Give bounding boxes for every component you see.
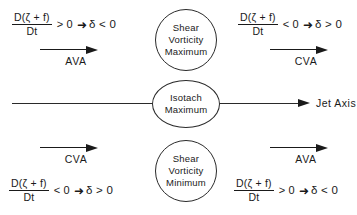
advection-upper-left: AVA [40,45,108,67]
fraction-numerator: D(ζ + f) [238,12,278,24]
divergence-result: δ > 0 [86,185,113,197]
bubble-line-1: Isotach [170,92,202,104]
advection-label: CVA [40,153,108,165]
arrow-head [316,46,328,54]
fraction-lower-left: D(ζ + f) Dt [9,178,49,203]
jet-axis-arrow-icon [298,99,310,107]
divergence-result: δ < 0 [311,185,338,197]
relation-operator: < 0 [54,185,70,196]
right-arrow-icon [40,143,108,152]
arrow-shaft [40,147,90,148]
equation-upper-left: D(ζ + f) Dt > 0 ➜ δ < 0 [12,12,116,37]
implies-arrow-icon: ➜ [74,184,84,196]
jet-streak-diagram: D(ζ + f) Dt > 0 ➜ δ < 0 AVA D(ζ + f) Dt … [0,0,357,215]
fraction-denominator: Dt [24,25,39,37]
fraction-upper-left: D(ζ + f) Dt [12,12,52,37]
equation-lower-right: D(ζ + f) Dt > 0 ➜ δ < 0 [234,178,338,203]
bubble-line-2: Vorticity [168,165,203,177]
fraction-denominator: Dt [246,191,261,203]
arrow-shaft [270,49,320,50]
right-arrow-icon [270,45,338,54]
implies-arrow-icon: ➜ [299,184,309,196]
advection-lower-right: AVA [270,143,338,165]
relation-operator: < 0 [283,19,299,30]
isotach-maximum-bubble: Isotach Maximum [152,80,220,128]
bubble-line-1: Shear [173,153,199,165]
bubble-line-2: Maximum [165,104,208,116]
relation-operator: > 0 [57,19,73,30]
fraction-lower-right: D(ζ + f) Dt [234,178,274,203]
implies-arrow-icon: ➜ [303,18,313,30]
bubble-line-3: Maximum [165,46,208,58]
relation-operator: > 0 [279,185,295,196]
fraction-denominator: Dt [250,25,265,37]
right-arrow-icon [270,143,338,152]
fraction-numerator: D(ζ + f) [9,178,49,190]
advection-upper-right: CVA [270,45,338,67]
divergence-result: δ > 0 [315,19,342,31]
right-arrow-icon [40,45,108,54]
shear-vorticity-minimum-bubble: Shear Vorticity Minimum [155,140,217,202]
equation-upper-right: D(ζ + f) Dt < 0 ➜ δ > 0 [238,12,342,37]
advection-lower-left: CVA [40,143,108,165]
fraction-numerator: D(ζ + f) [12,12,52,24]
bubble-line-2: Vorticity [168,34,203,46]
shear-vorticity-maximum-bubble: Shear Vorticity Maximum [155,9,217,71]
arrow-shaft [270,147,320,148]
bubble-line-3: Minimum [166,177,206,189]
arrow-head [86,46,98,54]
jet-axis-label: Jet Axis [316,97,356,109]
advection-label: CVA [270,55,338,67]
arrow-head [316,144,328,152]
fraction-numerator: D(ζ + f) [234,178,274,190]
fraction-upper-right: D(ζ + f) Dt [238,12,278,37]
arrow-shaft [40,49,90,50]
equation-lower-left: D(ζ + f) Dt < 0 ➜ δ > 0 [9,178,113,203]
implies-arrow-icon: ➜ [77,18,87,30]
arrow-head [86,144,98,152]
fraction-denominator: Dt [21,191,36,203]
advection-label: AVA [270,153,338,165]
divergence-result: δ < 0 [89,19,116,31]
advection-label: AVA [40,55,108,67]
bubble-line-1: Shear [173,22,199,34]
